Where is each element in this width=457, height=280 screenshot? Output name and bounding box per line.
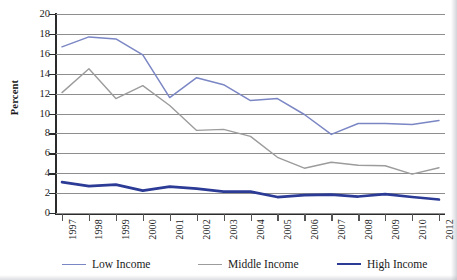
y-tick-label: 2 [24, 188, 50, 198]
x-tick-label: 1999 [120, 219, 131, 240]
x-tick-label: 2004 [255, 219, 266, 240]
y-tick-label: 4 [24, 168, 50, 178]
y-tick-label: 18 [24, 29, 50, 39]
legend-label-low-income: Low Income [92, 258, 150, 270]
y-tick-mark [49, 153, 56, 154]
x-tick-label: 2010 [417, 219, 428, 240]
x-tick-mark [412, 214, 413, 221]
scan-edge-right [451, 0, 457, 280]
x-tick-mark [197, 214, 198, 221]
y-tick-mark [49, 193, 56, 194]
y-tick-mark [49, 54, 56, 55]
x-tick-label: 2000 [147, 219, 158, 240]
series-line-low-income [62, 37, 439, 135]
y-tick-mark [49, 14, 56, 15]
legend-swatch-middle-income [198, 264, 222, 265]
legend-item-low-income[interactable]: Low Income [62, 258, 150, 270]
series-line-high-income [62, 182, 439, 199]
x-tick-label: 1997 [67, 219, 78, 240]
y-tick-label: 8 [24, 128, 50, 138]
y-axis-tick-labels: 20181614121086420 [22, 0, 50, 280]
y-tick-label: 10 [24, 109, 50, 119]
plot-area [56, 14, 445, 213]
x-tick-mark [170, 214, 171, 221]
x-tick-label: 2009 [390, 219, 401, 240]
x-tick-mark [385, 214, 386, 221]
x-tick-mark [331, 214, 332, 221]
x-tick-label: 2008 [363, 219, 374, 240]
x-tick-label: 2005 [282, 219, 293, 240]
x-tick-mark [439, 214, 440, 221]
x-tick-label: 2002 [201, 219, 212, 240]
x-tick-mark [224, 214, 225, 221]
x-tick-mark [277, 214, 278, 221]
y-tick-mark [49, 213, 56, 214]
legend-label-middle-income: Middle Income [228, 258, 299, 270]
x-tick-mark [358, 214, 359, 221]
legend-item-middle-income[interactable]: Middle Income [198, 258, 299, 270]
x-tick-label: 2007 [336, 219, 347, 240]
legend-item-high-income[interactable]: High Income [337, 258, 427, 270]
legend-label-high-income: High Income [367, 258, 427, 270]
y-tick-mark [49, 173, 56, 174]
x-tick-mark [89, 214, 90, 221]
legend-swatch-low-income [62, 264, 86, 265]
scan-edge-bottom [0, 275, 457, 280]
x-tick-label: 1998 [93, 219, 104, 240]
y-tick-label: 14 [24, 69, 50, 79]
y-tick-mark [49, 74, 56, 75]
x-tick-mark [143, 214, 144, 221]
y-tick-mark [49, 94, 56, 95]
y-axis-title: Percent [9, 68, 20, 128]
y-tick-mark [49, 114, 56, 115]
x-tick-mark [116, 214, 117, 221]
x-tick-label: 2001 [174, 219, 185, 240]
legend-swatch-high-income [337, 263, 361, 265]
y-tick-label: 0 [24, 208, 50, 218]
series-lines [56, 14, 445, 213]
x-tick-mark [251, 214, 252, 221]
x-tick-mark [304, 214, 305, 221]
y-tick-mark [49, 133, 56, 134]
y-tick-label: 20 [24, 9, 50, 19]
x-tick-label: 2006 [309, 219, 320, 240]
line-chart: Percent 20181614121086420 19971998199920… [0, 0, 457, 280]
y-tick-label: 6 [24, 148, 50, 158]
x-tick-label: 2003 [228, 219, 239, 240]
x-tick-mark [62, 214, 63, 221]
y-tick-label: 16 [24, 49, 50, 59]
y-tick-mark [49, 34, 56, 35]
series-line-middle-income [62, 69, 439, 174]
y-tick-label: 12 [24, 89, 50, 99]
